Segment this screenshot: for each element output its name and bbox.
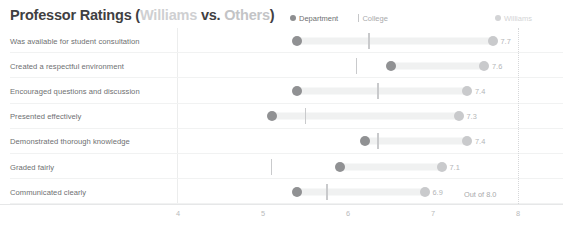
college-marker[interactable] — [368, 33, 370, 49]
value-label: 6.9 — [433, 187, 443, 196]
department-marker[interactable] — [360, 136, 370, 146]
chart-row[interactable]: Presented effectively7.3 — [0, 104, 563, 129]
williams-marker[interactable] — [488, 36, 498, 46]
row-label: Communicated clearly — [10, 187, 86, 196]
college-marker[interactable] — [305, 108, 307, 124]
chart-row[interactable]: Created a respectful environment7.6 — [0, 53, 563, 78]
legend-label-department: Department — [299, 14, 338, 23]
value-label: 7.4 — [475, 137, 485, 146]
williams-dot-icon — [495, 15, 501, 21]
title-prefix: Professor Ratings ( — [10, 7, 140, 23]
legend-label-williams: Williams — [504, 14, 532, 23]
value-label: 7.1 — [450, 162, 460, 171]
range-band — [391, 62, 485, 69]
x-axis: 45678 — [0, 205, 563, 229]
chart-row[interactable]: Was available for student consultation7.… — [0, 28, 563, 53]
department-dot-icon — [290, 15, 296, 21]
chart-row[interactable]: Graded fairly7.1 — [0, 154, 563, 179]
x-axis-tick-label: 4 — [176, 209, 180, 218]
department-marker[interactable] — [335, 162, 345, 172]
williams-marker[interactable] — [479, 61, 489, 71]
title-highlight-others: Others — [224, 7, 270, 23]
value-label: 7.6 — [492, 61, 502, 70]
department-marker[interactable] — [292, 187, 302, 197]
max-scale-note: Out of 8.0 — [464, 190, 496, 199]
range-band — [297, 188, 425, 195]
college-marker[interactable] — [326, 184, 328, 200]
department-marker[interactable] — [386, 61, 396, 71]
williams-marker[interactable] — [462, 136, 472, 146]
page-title: Professor Ratings (Williams vs. Others) — [10, 7, 274, 23]
professor-ratings-chart: Professor Ratings (Williams vs. Others) … — [0, 0, 563, 229]
range-band — [340, 163, 442, 170]
williams-marker[interactable] — [462, 86, 472, 96]
williams-marker[interactable] — [454, 111, 464, 121]
range-band — [272, 113, 459, 120]
title-suffix: ) — [270, 7, 275, 23]
x-axis-tick-label: 5 — [261, 209, 265, 218]
row-label: Encouraged questions and discussion — [10, 86, 140, 95]
row-label: Demonstrated thorough knowledge — [10, 137, 130, 146]
max-reference-line — [518, 28, 519, 204]
college-marker[interactable] — [377, 133, 379, 149]
row-label: Presented effectively — [10, 112, 81, 121]
range-band — [297, 37, 493, 44]
plot-area: Was available for student consultation7.… — [0, 28, 563, 204]
x-axis-tick-label: 6 — [346, 209, 350, 218]
row-label: Graded fairly — [10, 162, 54, 171]
department-marker[interactable] — [292, 36, 302, 46]
legend-label-college: College — [362, 14, 387, 23]
range-band — [297, 87, 467, 94]
department-marker[interactable] — [267, 111, 277, 121]
college-marker[interactable] — [271, 159, 273, 175]
legend-item-college[interactable]: College — [358, 12, 388, 24]
x-axis-tick-label: 8 — [516, 209, 520, 218]
williams-marker[interactable] — [420, 187, 430, 197]
college-line-icon — [358, 14, 359, 22]
legend-item-department[interactable]: Department — [290, 12, 338, 24]
college-marker[interactable] — [356, 58, 358, 74]
college-marker[interactable] — [377, 83, 379, 99]
title-middle: vs. — [197, 7, 224, 23]
x-axis-tick-label: 7 — [431, 209, 435, 218]
chart-row[interactable]: Demonstrated thorough knowledge7.4 — [0, 129, 563, 154]
value-label: 7.3 — [467, 112, 477, 121]
range-band — [365, 138, 467, 145]
title-highlight-williams: Williams — [140, 7, 197, 23]
legend-item-williams[interactable]: Williams — [495, 12, 532, 24]
chart-row[interactable]: Encouraged questions and discussion7.4 — [0, 78, 563, 103]
value-label: 7.7 — [501, 36, 511, 45]
row-label: Created a respectful environment — [10, 61, 124, 70]
value-label: 7.4 — [475, 86, 485, 95]
department-marker[interactable] — [292, 86, 302, 96]
row-label: Was available for student consultation — [10, 36, 140, 45]
williams-marker[interactable] — [437, 162, 447, 172]
